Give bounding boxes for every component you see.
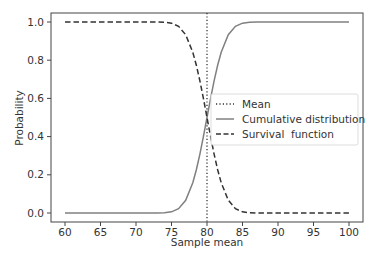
x-tick-label: 65 — [94, 226, 107, 238]
x-tick-label: 100 — [339, 226, 359, 238]
y-tick-label: 1.0 — [27, 16, 44, 28]
y-tick-label: 0.4 — [27, 130, 44, 142]
legend-label-mean: Mean — [242, 98, 271, 110]
legend-label-sf: Survival function — [242, 128, 334, 140]
chart-container: 0.00.20.40.60.81.0 6065707580859095100 S… — [0, 0, 380, 264]
legend: Mean Cumulative distribution Survival fu… — [211, 94, 365, 145]
y-tick-label: 0.2 — [27, 168, 44, 180]
y-tick-label: 0.6 — [27, 92, 44, 104]
x-tick-label: 70 — [129, 226, 142, 238]
y-tick-label: 0.8 — [27, 54, 44, 66]
y-axis: 0.00.20.40.60.81.0 — [27, 16, 51, 219]
x-tick-label: 95 — [307, 226, 320, 238]
chart-svg: 0.00.20.40.60.81.0 6065707580859095100 S… — [0, 0, 380, 264]
x-axis-label: Sample mean — [171, 236, 244, 248]
y-axis-label: Probability — [13, 90, 25, 146]
x-tick-label: 90 — [271, 226, 284, 238]
legend-label-cdf: Cumulative distribution — [242, 113, 365, 125]
y-tick-label: 0.0 — [27, 207, 44, 219]
x-tick-label: 60 — [58, 226, 71, 238]
